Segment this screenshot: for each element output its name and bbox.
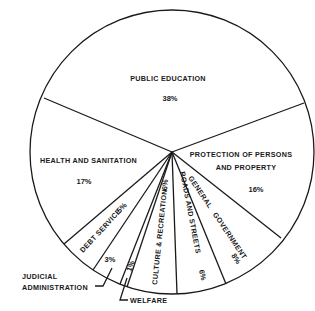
slice-culture-recreation: CULTURE & RECREATION 6% bbox=[150, 179, 170, 286]
pct-protection: 16% bbox=[248, 185, 263, 194]
label-judicial: JUDICIAL bbox=[22, 272, 58, 281]
slice-public-education: PUBLIC EDUCATION 38% bbox=[130, 74, 206, 103]
label-welfare: WELFARE bbox=[130, 296, 167, 305]
slice-protection: PROTECTION OF PERSONS AND PROPERTY 16% bbox=[190, 150, 293, 194]
pct-judicial: 3% bbox=[105, 255, 116, 264]
slice-dividers bbox=[44, 98, 304, 294]
label-debt: DEBT SERVICE bbox=[78, 207, 123, 255]
slice-health-sanitation: HEALTH AND SANITATION 17% bbox=[40, 156, 137, 186]
label-protection-2: AND PROPERTY bbox=[216, 163, 277, 172]
label-administration: ADMINISTRATION bbox=[22, 283, 88, 292]
pct-roads: 6% bbox=[197, 269, 208, 282]
pct-culture: 6% bbox=[160, 179, 170, 191]
label-culture: CULTURE & RECREATION bbox=[150, 189, 169, 285]
pie-chart: PUBLIC EDUCATION 38% PROTECTION OF PERSO… bbox=[0, 0, 315, 311]
pct-public-education: 38% bbox=[162, 94, 177, 103]
label-protection-1: PROTECTION OF PERSONS bbox=[190, 150, 293, 159]
label-government: GOVERNMENT bbox=[211, 211, 249, 261]
pct-health: 17% bbox=[76, 177, 91, 186]
slice-judicial-administration: 3% JUDICIAL ADMINISTRATION bbox=[22, 255, 116, 292]
label-public-education: PUBLIC EDUCATION bbox=[130, 74, 206, 83]
pct-welfare: 1% bbox=[124, 259, 136, 273]
label-health: HEALTH AND SANITATION bbox=[40, 156, 137, 165]
